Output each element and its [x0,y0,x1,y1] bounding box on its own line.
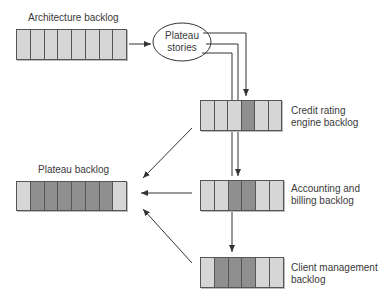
backlog-cell [215,101,229,130]
architecture-backlog-label: Architecture backlog [28,12,119,24]
plateau-backlog-label: Plateau backlog [38,164,109,176]
backlog-cell [228,101,242,130]
backlog-cell [229,181,243,210]
backlog-cell [100,30,114,59]
backlog-cell [17,182,31,210]
backlog-cell [270,181,283,210]
backlog-cell [242,258,256,287]
backlog-cell [229,258,243,287]
backlog-cell [86,182,100,210]
backlog-cell [201,181,215,210]
backlog-cell [242,181,256,210]
plateau-stories-label: Plateau stories [164,30,200,54]
backlog-cell [201,101,215,130]
backlog-cell [215,258,229,287]
accounting-backlog [200,180,284,211]
backlog-cell [113,182,126,210]
backlog-cell [45,30,59,59]
backlog-cell [100,182,114,210]
backlog-cell [215,181,229,210]
backlog-cell [31,182,45,210]
backlog-cell [72,182,86,210]
client-management-backlog [200,257,284,288]
credit-rating-label: Credit rating engine backlog [291,105,358,129]
backlog-cell [242,101,256,130]
backlog-cell [113,30,126,59]
backlog-cell [17,30,31,59]
backlog-cell [45,182,59,210]
backlog-cell [269,101,282,130]
backlog-cell [256,258,270,287]
backlog-cell [270,258,283,287]
backlog-cell [31,30,45,59]
client-management-label: Client management backlog [291,262,378,286]
backlog-cell [58,30,72,59]
backlog-cell [255,101,269,130]
backlog-cell [58,182,72,210]
backlog-cell [201,258,215,287]
credit-rating-backlog [200,100,282,131]
architecture-backlog [16,29,127,60]
plateau-backlog [16,181,127,211]
accounting-label: Accounting and billing backlog [291,183,360,207]
backlog-cell [86,30,100,59]
backlog-cell [256,181,270,210]
backlog-cell [72,30,86,59]
